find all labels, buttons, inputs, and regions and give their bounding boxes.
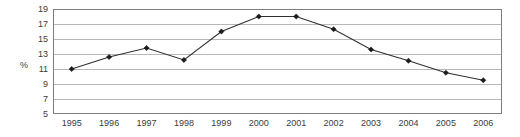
x-tick-label: 2004 (388, 118, 428, 128)
x-tick-label: 1999 (201, 118, 241, 128)
plot-svg (53, 9, 502, 114)
gridlines (53, 25, 502, 100)
x-tick-label: 2005 (426, 118, 466, 128)
data-point-marker (256, 14, 261, 19)
x-tick-label: 1998 (164, 118, 204, 128)
series-line (72, 17, 484, 81)
x-tick-label: 2006 (463, 118, 503, 128)
data-point-marker (69, 66, 74, 71)
data-point-marker (368, 47, 373, 52)
plot-border (54, 10, 502, 114)
x-tick-label: 1996 (89, 118, 129, 128)
x-tick-label: 1997 (127, 118, 167, 128)
x-tick-label: 2002 (314, 118, 354, 128)
data-point-marker (443, 70, 448, 75)
x-tick-label: 2003 (351, 118, 391, 128)
data-point-marker (294, 14, 299, 19)
x-tick-label: 1995 (52, 118, 92, 128)
plot-frame (54, 10, 502, 114)
data-point-marker (144, 45, 149, 50)
line-chart: % 1917151311975 199519961997199819992000… (0, 0, 520, 137)
x-tick-label: 2000 (239, 118, 279, 128)
x-tick-label: 2001 (276, 118, 316, 128)
plot-area (53, 9, 502, 114)
data-point-marker (481, 78, 486, 83)
data-point-marker (406, 58, 411, 63)
data-point-marker (331, 27, 336, 32)
data-point-marker (107, 54, 112, 59)
